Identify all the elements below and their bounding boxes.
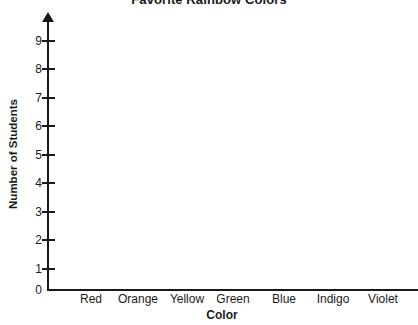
y-tick-9: 9 bbox=[0, 34, 64, 48]
y-tick-label: 4 bbox=[28, 176, 42, 190]
y-tick-label: 3 bbox=[28, 205, 42, 219]
y-tick-0: 0 bbox=[0, 283, 64, 297]
y-tick-1: 1 bbox=[0, 262, 64, 276]
y-tick-label: 0 bbox=[28, 283, 42, 297]
y-tick-mark bbox=[42, 268, 55, 270]
x-category-label-violet: Violet bbox=[355, 292, 411, 306]
x-category-label-blue: Blue bbox=[258, 292, 310, 306]
y-tick-label: 7 bbox=[28, 91, 42, 105]
y-tick-2: 2 bbox=[0, 233, 64, 247]
y-tick-label: 5 bbox=[28, 148, 42, 162]
x-category-label-green: Green bbox=[205, 292, 261, 306]
y-tick-mark bbox=[42, 68, 55, 70]
y-tick-mark bbox=[42, 154, 55, 156]
x-axis-line bbox=[47, 289, 418, 291]
y-tick-label: 8 bbox=[28, 62, 42, 76]
x-category-label-indigo: Indigo bbox=[305, 292, 361, 306]
y-tick-label: 6 bbox=[28, 119, 42, 133]
y-tick-label: 1 bbox=[28, 262, 42, 276]
y-tick-mark bbox=[42, 211, 55, 213]
chart-title: Favorite Rainbow Colors bbox=[0, 0, 418, 7]
y-tick-mark bbox=[42, 125, 55, 127]
x-axis-title: Color bbox=[47, 308, 397, 322]
bar-chart-worksheet: Favorite Rainbow Colors 9 8 7 6 5 4 3 2 … bbox=[0, 0, 418, 325]
y-tick-mark bbox=[42, 97, 55, 99]
y-tick-mark bbox=[42, 239, 55, 241]
y-tick-label: 2 bbox=[28, 233, 42, 247]
y-tick-mark bbox=[42, 40, 55, 42]
y-axis-title: Number of Students bbox=[7, 84, 19, 224]
y-tick-mark bbox=[42, 182, 55, 184]
y-tick-label: 9 bbox=[28, 34, 42, 48]
y-tick-8: 8 bbox=[0, 62, 64, 76]
